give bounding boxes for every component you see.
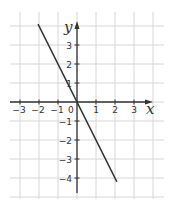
y-tick-label: 3 <box>66 41 72 51</box>
y-axis-arrow-icon <box>75 21 80 29</box>
tick-labels: −3−2−1123321−1−2−3−4 <box>12 41 137 184</box>
x-axis-label: x <box>146 100 155 118</box>
x-tick-label: −2 <box>31 105 44 115</box>
y-tick-label: −1 <box>59 117 72 127</box>
y-axis-label: y <box>63 18 73 36</box>
origin-label: 0 <box>68 105 74 115</box>
y-tick-label: 2 <box>66 60 72 70</box>
x-tick-label: 2 <box>112 105 118 115</box>
x-tick-label: 1 <box>93 105 99 115</box>
y-tick-label: −4 <box>59 174 73 184</box>
line-graph: −3−2−1123321−1−2−3−4 0 x y <box>0 0 174 205</box>
x-tick-label: 3 <box>131 105 137 115</box>
y-tick-label: −2 <box>59 136 72 146</box>
y-tick-label: −3 <box>59 155 72 165</box>
x-axis <box>10 100 153 105</box>
x-tick-label: −3 <box>12 105 25 115</box>
x-tick-label: −1 <box>50 105 63 115</box>
